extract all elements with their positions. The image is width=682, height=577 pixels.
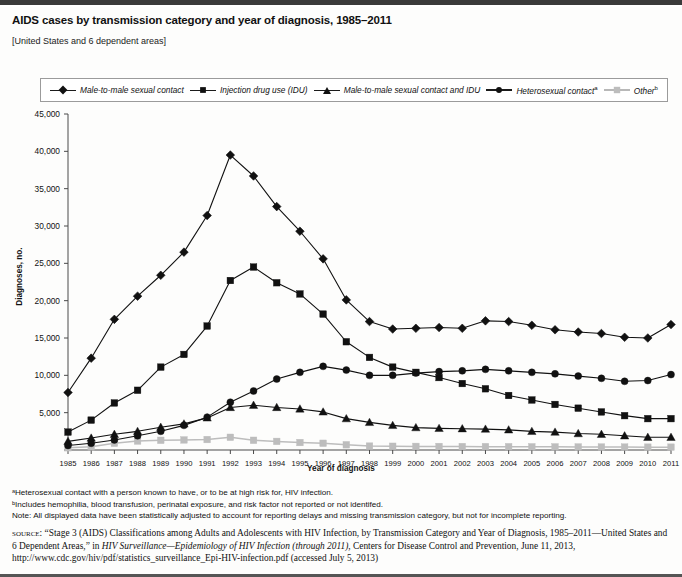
data-point-square	[459, 380, 466, 387]
source-label: source:	[12, 528, 42, 538]
y-tick-label: 15,000	[35, 333, 61, 343]
legend-label: Male-to-male sexual contact	[80, 85, 184, 95]
data-point-square	[389, 364, 396, 371]
legend-item-1: Male-to-male sexual contact	[50, 85, 184, 95]
plot-area: Diagnoses, no. 5,00010,00015,00020,00025…	[0, 104, 682, 476]
data-point-circle	[134, 432, 141, 439]
legend-label: Male-to-male sexual contact and IDU	[344, 85, 481, 95]
data-point-circle	[575, 373, 582, 380]
data-point-circle	[88, 440, 95, 447]
data-point-square	[88, 417, 95, 424]
data-point-square	[227, 434, 234, 441]
series-4	[65, 363, 675, 449]
source-citation: source: “Stage 3 (AIDS) Classifications …	[12, 527, 672, 565]
legend-label: Heterosexual contacta	[516, 85, 597, 96]
data-point-square	[575, 405, 582, 412]
data-point-square	[157, 437, 164, 444]
data-point-square	[529, 443, 536, 450]
data-point-square	[297, 439, 304, 446]
data-point-square	[204, 436, 211, 443]
legend-marker-glyph	[59, 86, 68, 95]
legend-item-2: Injection drug use (IDU)	[190, 85, 308, 95]
data-point-square	[482, 385, 489, 392]
data-point-circle	[250, 388, 257, 395]
data-point-square	[575, 444, 582, 451]
legend-marker-diamond-icon	[50, 85, 76, 95]
data-point-square	[598, 409, 605, 416]
data-point-circle	[273, 376, 280, 383]
data-point-square	[621, 444, 628, 451]
legend-item-4: Heterosexual contacta	[486, 85, 597, 96]
data-point-square	[668, 415, 675, 422]
data-point-diamond	[388, 325, 397, 334]
footnote-b: ᵇIncludes hemophilia, blood transfusion,…	[12, 499, 672, 511]
data-point-square	[366, 443, 373, 450]
data-point-diamond	[64, 388, 73, 397]
data-point-square	[65, 429, 72, 436]
y-tick-label: 25,000	[35, 258, 61, 268]
series-5	[65, 434, 675, 451]
data-point-diamond	[203, 211, 212, 220]
legend-item-5: Otherb	[604, 85, 658, 96]
data-point-circle	[598, 375, 605, 382]
data-point-diamond	[87, 354, 96, 363]
legend-marker-square-gray-icon	[604, 85, 630, 95]
legend-label: Injection drug use (IDU)	[220, 85, 308, 95]
legend-item-3: Male-to-male sexual contact and IDU	[314, 85, 481, 95]
data-point-square	[598, 444, 605, 451]
data-point-square	[273, 279, 280, 286]
data-point-square	[413, 443, 420, 450]
data-point-circle	[621, 378, 628, 385]
data-point-square	[436, 443, 443, 450]
data-point-diamond	[458, 324, 467, 333]
line-chart: 5,00010,00015,00020,00025,00030,00035,00…	[0, 104, 682, 476]
data-point-diamond	[412, 324, 421, 333]
data-point-circle	[482, 366, 489, 373]
data-point-circle	[111, 436, 118, 443]
data-point-square	[366, 354, 373, 361]
data-point-circle	[343, 367, 350, 374]
data-point-square	[297, 291, 304, 298]
data-point-circle	[436, 368, 443, 375]
data-point-square	[181, 351, 188, 358]
series-2	[65, 264, 675, 436]
data-point-square	[157, 364, 164, 371]
source-italic-title: HIV Surveillance—Epidemiology of HIV Inf…	[102, 541, 348, 551]
data-point-circle	[366, 372, 373, 379]
data-point-square	[273, 438, 280, 445]
data-point-diamond	[551, 325, 560, 334]
data-point-square	[343, 441, 350, 448]
footnotes: ᵃHeterosexual contact with a person know…	[12, 487, 672, 522]
data-point-diamond	[528, 321, 537, 330]
data-point-square	[181, 437, 188, 444]
data-point-circle	[389, 372, 396, 379]
data-point-circle	[528, 369, 535, 376]
data-point-square	[459, 443, 466, 450]
y-tick-label: 45,000	[35, 109, 61, 119]
data-point-circle	[644, 377, 651, 384]
chart-legend: Male-to-male sexual contactInjection dru…	[40, 78, 668, 102]
data-point-square	[320, 440, 327, 447]
data-point-circle	[204, 414, 211, 421]
data-point-diamond	[597, 329, 606, 338]
data-point-square	[343, 338, 350, 345]
data-point-circle	[552, 370, 559, 377]
legend-superscript: a	[594, 85, 597, 91]
legend-marker-glyph	[200, 87, 206, 93]
data-point-square	[250, 264, 257, 271]
data-point-diamond	[504, 317, 513, 326]
data-point-square	[505, 443, 512, 450]
y-tick-label: 35,000	[35, 184, 61, 194]
legend-marker-glyph	[496, 87, 502, 93]
data-point-diamond	[481, 317, 490, 326]
data-point-square	[204, 323, 211, 330]
data-point-square	[482, 443, 489, 450]
data-point-diamond	[620, 333, 629, 342]
footnote-note: Note: All displayed data have been stati…	[12, 510, 672, 522]
data-point-square	[645, 444, 652, 451]
data-point-square	[111, 400, 118, 407]
data-point-square	[621, 412, 628, 419]
data-point-diamond	[644, 334, 653, 343]
data-point-circle	[227, 399, 234, 406]
data-point-circle	[296, 369, 303, 376]
